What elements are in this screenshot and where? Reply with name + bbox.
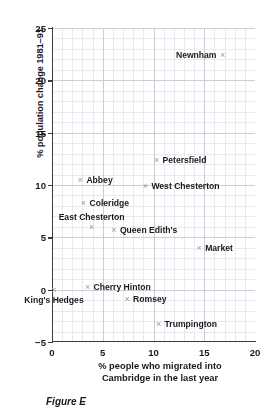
data-point-marker: ×: [124, 295, 129, 304]
y-tick-label: 0: [41, 284, 46, 295]
data-point-label: Trumpington: [165, 320, 218, 329]
x-tick-label: 0: [49, 347, 54, 358]
data-point-marker: ×: [220, 51, 225, 60]
y-tick-mark: [48, 80, 53, 81]
data-point-label: Market: [205, 244, 233, 253]
data-point-label: King's Hedges: [24, 296, 83, 305]
y-tick-mark: [48, 28, 53, 29]
data-point-label: Queen Edith's: [120, 226, 177, 235]
y-tick-mark: [48, 133, 53, 134]
data-point-marker: ×: [85, 282, 90, 291]
data-point-label: Petersfield: [163, 156, 207, 165]
x-axis-title: % people who migrated into Cambridge in …: [52, 360, 268, 384]
figure-container: % population change 1981–91 −50510152025…: [0, 0, 274, 419]
data-point-marker: ×: [78, 175, 83, 184]
x-tick-label: 20: [250, 347, 261, 358]
y-tick-mark: [48, 185, 53, 186]
data-point-marker: ×: [111, 226, 116, 235]
figure-caption: Figure E: [46, 396, 86, 407]
data-point-label: Newnham: [176, 51, 217, 60]
data-point-marker: ×: [143, 182, 148, 191]
x-tick-label: 5: [100, 347, 105, 358]
data-point-label: East Chesterton: [59, 213, 125, 222]
y-tick-label: 5: [41, 232, 46, 243]
x-tick-label: 15: [199, 347, 210, 358]
data-point-marker: ×: [154, 155, 159, 164]
y-tick-label: −5: [35, 337, 46, 348]
x-axis-title-line-2: Cambridge in the last year: [52, 372, 268, 384]
y-tick-label: 10: [35, 180, 46, 191]
y-tick-label: 20: [35, 75, 46, 86]
x-axis-title-line-1: % people who migrated into: [52, 360, 268, 372]
data-point-label: Abbey: [86, 175, 112, 184]
y-tick-label: 15: [35, 127, 46, 138]
data-point-marker: ×: [156, 320, 161, 329]
data-point-marker: ×: [81, 198, 86, 207]
y-tick-mark: [48, 237, 53, 238]
plot-area: −50510152025 05101520 ×Newnham×Petersfie…: [52, 28, 255, 342]
data-point-label: West Chesterton: [151, 182, 219, 191]
data-point-marker: ×: [89, 222, 94, 231]
data-point-marker: ×: [197, 243, 202, 252]
x-axis-line: [52, 341, 256, 342]
x-tick-label: 10: [148, 347, 159, 358]
data-point-label: Romsey: [133, 295, 166, 304]
y-tick-label: 25: [35, 23, 46, 34]
data-point-label: Cherry Hinton: [94, 282, 151, 291]
y-tick-mark: [48, 342, 53, 343]
data-point-label: Coleridge: [89, 198, 129, 207]
data-point-marker: ×: [51, 285, 56, 294]
